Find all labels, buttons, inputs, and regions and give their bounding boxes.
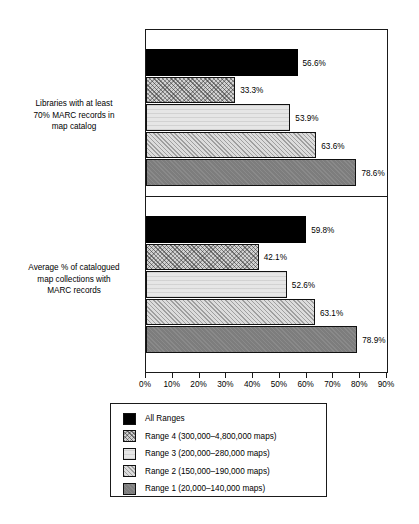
bar-row: 78.6% bbox=[146, 159, 387, 187]
bar-range-1 bbox=[146, 326, 357, 353]
bar-row: 33.3% bbox=[146, 77, 387, 105]
legend-swatch bbox=[123, 483, 136, 495]
x-axis-tick bbox=[172, 373, 173, 378]
bar-range-3 bbox=[146, 104, 290, 131]
bars-panel-libraries-marc: 56.6%33.3%53.9%63.6%78.6% bbox=[146, 49, 387, 187]
x-axis-tick bbox=[279, 373, 280, 378]
bar-row: 63.1% bbox=[146, 299, 387, 327]
category-label-line: map catalog bbox=[8, 121, 140, 133]
legend-item: Range 3 (200,000–280,000 maps) bbox=[123, 447, 270, 460]
category-label-line: map collections with bbox=[8, 274, 140, 286]
bar-chart-figure: Libraries with at least70% MARC records … bbox=[0, 0, 419, 524]
bar-all-ranges bbox=[146, 49, 298, 76]
bar-value-label: 63.6% bbox=[316, 141, 344, 150]
legend-item: Range 4 (300,000–4,800,000 maps) bbox=[123, 430, 277, 443]
x-axis-tick-label: 0% bbox=[139, 380, 151, 389]
category-label-line: MARC records bbox=[8, 285, 140, 297]
bar-range-4 bbox=[146, 77, 235, 104]
x-axis-tick-label: 80% bbox=[351, 380, 367, 389]
legend-item: Range 1 (20,000–140,000 maps) bbox=[123, 482, 265, 495]
bar-row: 52.6% bbox=[146, 271, 387, 299]
x-axis-tick bbox=[386, 373, 387, 378]
category-label-line: 70% MARC records in bbox=[8, 110, 140, 122]
legend-label: All Ranges bbox=[145, 414, 185, 423]
category-label-libraries-marc: Libraries with at least70% MARC records … bbox=[8, 98, 140, 133]
legend-swatch bbox=[123, 413, 136, 425]
bar-value-label: 63.1% bbox=[315, 308, 343, 317]
x-axis-tick-label: 70% bbox=[324, 380, 340, 389]
bar-value-label: 33.3% bbox=[235, 86, 263, 95]
bar-range-1 bbox=[146, 159, 356, 186]
bar-all-ranges bbox=[146, 216, 306, 243]
category-label-line: Average % of catalogued bbox=[8, 262, 140, 274]
bar-value-label: 59.8% bbox=[306, 225, 334, 234]
bars-panel-average-catalogued: 59.8%42.1%52.6%63.1%78.9% bbox=[146, 216, 387, 354]
legend-label: Range 1 (20,000–140,000 maps) bbox=[145, 484, 265, 493]
x-axis-tick bbox=[359, 373, 360, 378]
x-axis-tick-label: 10% bbox=[164, 380, 180, 389]
legend-item: Range 2 (150,000–190,000 maps) bbox=[123, 465, 270, 478]
panel-divider bbox=[145, 196, 388, 197]
chart-legend: All RangesRange 4 (300,000–4,800,000 map… bbox=[110, 403, 327, 497]
x-axis: 0%10%20%30%40%50%60%70%80%90% bbox=[145, 373, 388, 399]
x-axis-tick-label: 40% bbox=[244, 380, 260, 389]
bar-value-label: 78.6% bbox=[356, 169, 384, 178]
bar-value-label: 42.1% bbox=[259, 253, 287, 262]
legend-label: Range 2 (150,000–190,000 maps) bbox=[145, 467, 270, 476]
bar-value-label: 52.6% bbox=[287, 280, 315, 289]
x-axis-tick-label: 20% bbox=[190, 380, 206, 389]
bar-value-label: 56.6% bbox=[298, 58, 326, 67]
x-axis-tick-label: 30% bbox=[217, 380, 233, 389]
bar-range-3 bbox=[146, 271, 287, 298]
legend-swatch bbox=[123, 430, 136, 442]
legend-label: Range 4 (300,000–4,800,000 maps) bbox=[145, 432, 277, 441]
bar-row: 56.6% bbox=[146, 49, 387, 77]
x-axis-tick-label: 50% bbox=[271, 380, 287, 389]
legend-item: All Ranges bbox=[123, 412, 185, 425]
bar-row: 78.9% bbox=[146, 326, 387, 354]
legend-label: Range 3 (200,000–280,000 maps) bbox=[145, 449, 270, 458]
x-axis-tick bbox=[145, 373, 146, 378]
legend-swatch bbox=[123, 465, 136, 477]
x-axis-tick bbox=[306, 373, 307, 378]
x-axis-tick bbox=[225, 373, 226, 378]
category-label-line: Libraries with at least bbox=[8, 98, 140, 110]
bar-range-4 bbox=[146, 244, 259, 271]
bar-row: 59.8% bbox=[146, 216, 387, 244]
bar-value-label: 53.9% bbox=[290, 113, 318, 122]
bar-row: 42.1% bbox=[146, 244, 387, 272]
x-axis-tick-label: 90% bbox=[378, 380, 394, 389]
x-axis-tick bbox=[332, 373, 333, 378]
legend-swatch bbox=[123, 448, 136, 460]
bar-range-2 bbox=[146, 299, 315, 326]
category-label-average-catalogued: Average % of cataloguedmap collections w… bbox=[8, 262, 140, 297]
bar-row: 53.9% bbox=[146, 104, 387, 132]
x-axis-tick bbox=[199, 373, 200, 378]
x-axis-tick bbox=[252, 373, 253, 378]
x-axis-tick-label: 60% bbox=[297, 380, 313, 389]
bar-value-label: 78.9% bbox=[357, 336, 385, 345]
bar-row: 63.6% bbox=[146, 132, 387, 160]
bar-range-2 bbox=[146, 132, 316, 159]
